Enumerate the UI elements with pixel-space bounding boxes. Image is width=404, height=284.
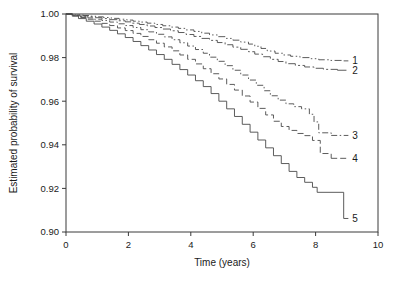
x-tick-label: 6: [251, 239, 256, 250]
x-tick-label: 10: [373, 239, 384, 250]
survival-curve-figure: 0.900.920.940.960.981.00 0246810 12345 T…: [0, 0, 404, 284]
curve-label-2: 2: [352, 65, 358, 76]
y-tick-label: 1.00: [41, 8, 60, 19]
x-axis-title: Time (years): [194, 257, 250, 268]
x-tick-label: 4: [188, 239, 193, 250]
y-tick-label: 0.94: [41, 139, 60, 150]
y-tick-label: 0.98: [41, 52, 60, 63]
x-tick-label: 8: [313, 239, 318, 250]
curve-label-3: 3: [352, 130, 358, 141]
y-axis-title: Estimated probability of survival: [8, 53, 19, 194]
survival-plot-svg: 0.900.920.940.960.981.00 0246810 12345 T…: [0, 0, 404, 284]
x-tick-label: 0: [63, 239, 68, 250]
y-tick-label: 0.96: [41, 96, 60, 107]
curve-label-4: 4: [352, 153, 358, 164]
figure-background: [0, 0, 404, 284]
y-tick-label: 0.92: [41, 183, 60, 194]
y-tick-label: 0.90: [41, 226, 60, 237]
x-tick-label: 2: [126, 239, 131, 250]
curve-label-5: 5: [352, 213, 358, 224]
